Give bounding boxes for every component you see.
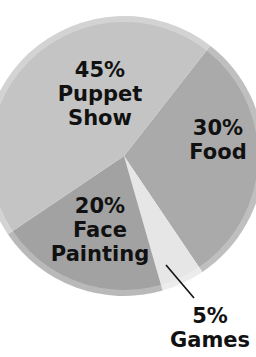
- label-food: 30% Food: [168, 116, 256, 164]
- label-puppet-show: 45% Puppet Show: [40, 58, 160, 130]
- label-face-painting: 20% Face Painting: [40, 194, 160, 266]
- label-games: 5% Games: [160, 304, 256, 352]
